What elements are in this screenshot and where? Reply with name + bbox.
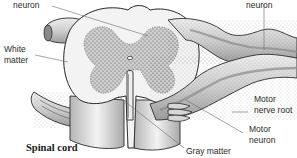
label-white-matter-line1: White xyxy=(4,44,26,54)
label-sensory-neuron-left: neuron xyxy=(13,0,39,10)
central-canal xyxy=(127,56,132,59)
label-gray-matter: Gray matter xyxy=(186,146,231,156)
label-white-matter-line2: matter xyxy=(4,55,28,65)
label-motor-nerve-root-line2: nerve root xyxy=(254,105,292,115)
spinal-cord-diagram: neuron neuron White matter Motor nerve r… xyxy=(0,0,297,158)
ventral-rootlets xyxy=(168,103,192,121)
label-motor-neuron-line1: Motor xyxy=(249,124,271,134)
label-motor-neuron-line2: neuron xyxy=(249,135,275,145)
label-motor-nerve-root-line1: Motor xyxy=(254,94,276,104)
anterior-median-fissure xyxy=(127,71,133,121)
label-sensory-neuron-right: neuron xyxy=(246,0,272,10)
diagram-title: Spinal cord xyxy=(26,142,78,153)
